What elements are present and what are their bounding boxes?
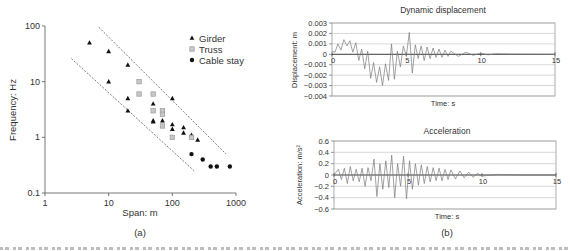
y-tick-label: 0.1 bbox=[27, 188, 40, 198]
legend: GirderTrussCable stay bbox=[190, 33, 245, 66]
y-tick-label: −0.4 bbox=[314, 193, 329, 202]
plot-frame bbox=[332, 23, 555, 96]
x-axis-label: Time: s bbox=[435, 212, 460, 221]
y-ticks: 0.0030.0020.0010−0.001−0.002−0.003−0.004 bbox=[304, 19, 332, 101]
x-tick-label: 0 bbox=[333, 177, 337, 186]
x-tick-label: 5 bbox=[405, 56, 409, 65]
dynamic-displacement-chart: Dynamic displacement 0.0030.0020.0010−0.… bbox=[290, 5, 560, 108]
girder-point bbox=[170, 127, 175, 131]
frequency-span-scatter-chart: 0.1110100 1101001000 GirderTrussCable st… bbox=[7, 21, 246, 238]
truss-point bbox=[160, 112, 164, 116]
y-ticks: 0.60.40.20−0.2−0.4−0.6 bbox=[314, 137, 334, 214]
x-axis-label: Time: s bbox=[431, 99, 456, 108]
y-tick-label: 1 bbox=[35, 132, 40, 142]
y-tick-label: 100 bbox=[25, 21, 40, 31]
girder-point bbox=[170, 96, 175, 100]
y-tick-label: −0.003 bbox=[304, 81, 327, 90]
legend-label: Cable stay bbox=[199, 55, 244, 66]
y-tick-label: 0.001 bbox=[308, 39, 327, 48]
x-tick-label: 10 bbox=[477, 56, 485, 65]
y-ticks: 0.1110100 bbox=[25, 21, 45, 198]
cable-stay-point bbox=[215, 164, 219, 168]
x-tick-label: 10 bbox=[104, 198, 114, 208]
panel-label-a: (a) bbox=[134, 227, 146, 238]
girder-point bbox=[125, 62, 130, 66]
cable-stay-point bbox=[208, 164, 212, 168]
y-axis-label: Displacement: m bbox=[290, 32, 299, 88]
y-tick-label: −0.6 bbox=[314, 205, 329, 214]
chart-title-displacement: Dynamic displacement bbox=[400, 5, 486, 15]
x-tick-label: 15 bbox=[552, 56, 560, 65]
girder-point bbox=[181, 125, 186, 129]
x-ticks: 1101001000 bbox=[42, 193, 246, 208]
girder-point bbox=[160, 118, 165, 122]
cable-stay-point bbox=[201, 157, 205, 161]
truss-point bbox=[151, 92, 155, 96]
panel-label-b: (b) bbox=[441, 227, 453, 238]
x-tick-label: 10 bbox=[479, 177, 487, 186]
cable-stay-point bbox=[228, 164, 232, 168]
x-axis-label: Span: m bbox=[122, 207, 157, 218]
y-tick-label: −0.004 bbox=[304, 92, 327, 101]
y-axis-label: Frequency: Hz bbox=[7, 79, 18, 141]
girder-point bbox=[181, 130, 186, 134]
girder-point bbox=[195, 137, 200, 141]
girder-point bbox=[170, 122, 175, 126]
girder-point bbox=[125, 96, 130, 100]
truss-point bbox=[170, 135, 174, 139]
girder-point bbox=[106, 79, 111, 83]
legend-label: Girder bbox=[199, 33, 225, 44]
y-tick-label: −0.001 bbox=[304, 60, 327, 69]
cropped-caption bbox=[0, 244, 570, 251]
y-tick-label: 0.6 bbox=[319, 137, 329, 146]
x-tick-label: 0 bbox=[331, 56, 335, 65]
chart-title-acceleration: Acceleration bbox=[424, 126, 471, 136]
figure: 0.1110100 1101001000 GirderTrussCable st… bbox=[0, 0, 570, 251]
truss-point bbox=[160, 124, 164, 128]
y-tick-label: −0.2 bbox=[314, 182, 329, 191]
displacement-line bbox=[332, 32, 555, 85]
truss-point bbox=[137, 92, 141, 96]
legend-truss-icon bbox=[190, 47, 194, 51]
y-tick-label: 0.002 bbox=[308, 29, 327, 38]
y-tick-label: 0.4 bbox=[319, 148, 329, 157]
cable-stay-point bbox=[189, 152, 193, 156]
girder-point bbox=[151, 101, 156, 105]
acceleration-line bbox=[334, 155, 556, 199]
y-tick-label: 0.003 bbox=[308, 19, 327, 28]
legend-girder-icon bbox=[190, 35, 195, 39]
truss-point bbox=[151, 109, 155, 113]
y-tick-label: 10 bbox=[30, 77, 40, 87]
y-tick-label: −0.002 bbox=[304, 71, 327, 80]
y-tick-label: 0 bbox=[325, 171, 329, 180]
truss-point bbox=[189, 135, 193, 139]
x-tick-label: 1000 bbox=[226, 198, 246, 208]
legend-label: Truss bbox=[199, 44, 223, 55]
legend-cable-stay-icon bbox=[190, 58, 194, 62]
gridlines bbox=[332, 23, 555, 96]
y-tick-label: 0 bbox=[323, 50, 327, 59]
acceleration-chart: Acceleration 0.60.40.20−0.2−0.4−0.6 0510… bbox=[295, 126, 561, 238]
girder-point bbox=[106, 49, 111, 53]
y-tick-label: 0.2 bbox=[319, 159, 329, 168]
bound-line-lower bbox=[71, 59, 194, 171]
girder-point bbox=[87, 40, 92, 44]
x-tick-label: 15 bbox=[553, 177, 561, 186]
x-tick-label: 1 bbox=[42, 198, 47, 208]
x-tick-label: 100 bbox=[165, 198, 180, 208]
y-axis-label: Acceleration: m/s² bbox=[295, 144, 304, 205]
truss-point bbox=[137, 79, 141, 83]
